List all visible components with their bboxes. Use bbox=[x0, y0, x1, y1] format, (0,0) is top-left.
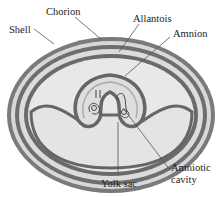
label-yolk-sac: Yolk sac bbox=[101, 178, 137, 189]
label-amniotic-cavity-line1: Amniotic bbox=[171, 162, 211, 173]
label-amniotic-cavity-line2: cavity bbox=[171, 174, 197, 185]
label-amnion: Amnion bbox=[173, 28, 207, 39]
label-allantois: Allantois bbox=[133, 13, 172, 24]
label-shell: Shell bbox=[9, 24, 31, 35]
label-chorion: Chorion bbox=[46, 6, 80, 17]
